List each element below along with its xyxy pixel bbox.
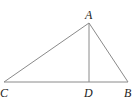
label-a: A [84, 8, 93, 22]
segment-ab [89, 23, 128, 82]
triangle-diagram: A C D B [0, 0, 136, 109]
label-d: D [83, 86, 93, 100]
label-b: B [124, 86, 132, 100]
segment-ac [4, 23, 89, 82]
label-c: C [0, 86, 9, 100]
